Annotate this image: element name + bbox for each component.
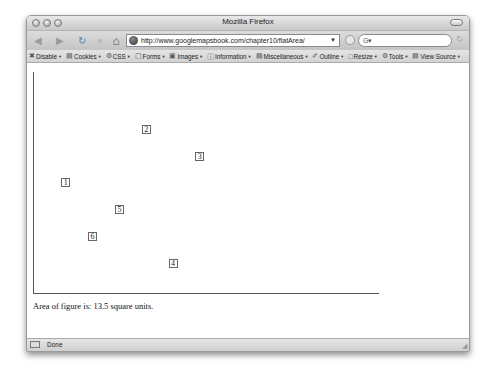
devbar-label: Disable	[36, 53, 57, 60]
devbar-cookies[interactable]: ▤Cookies▼	[66, 52, 102, 60]
chevron-down-icon: ▼	[457, 54, 461, 59]
point-label-4: 4	[169, 259, 178, 268]
view-source-icon: ▤	[412, 52, 419, 60]
resize-icon: □	[348, 53, 352, 60]
stop-icon[interactable]: ●	[93, 34, 107, 47]
forward-icon[interactable]: ▶	[53, 34, 67, 47]
resize-grip-icon[interactable]: ◢	[462, 342, 467, 350]
chevron-down-icon: ▼	[161, 54, 165, 59]
outline-icon: ✐	[312, 52, 318, 60]
devbar-tools[interactable]: ⚙Tools▼	[382, 52, 409, 60]
point-label-2: 2	[142, 125, 151, 134]
chevron-down-icon: ▼	[404, 54, 408, 59]
back-icon[interactable]: ◀	[31, 34, 45, 47]
devbar-label: Images	[177, 53, 198, 60]
chevron-down-icon: ▼	[98, 54, 102, 59]
cookies-icon: ▤	[66, 52, 73, 60]
area-result-text: Area of figure is: 13.5 square units.	[33, 301, 153, 311]
forms-icon: ▢	[135, 52, 142, 60]
page-content: 123456 Area of figure is: 13.5 square un…	[27, 64, 469, 337]
chevron-down-icon: ▼	[199, 54, 203, 59]
url-text: http://www.googlemapsbook.com/chapter10/…	[141, 37, 305, 44]
chevron-down-icon: ▼	[58, 54, 62, 59]
chevron-down-icon: ▼	[304, 54, 308, 59]
site-globe-icon	[129, 36, 138, 45]
point-label-3: 3	[195, 152, 204, 161]
status-icon	[30, 341, 40, 348]
home-icon[interactable]: ⌂	[109, 34, 123, 47]
devbar-label: Tools	[389, 53, 404, 60]
miscellaneous-icon: ▤	[256, 52, 263, 60]
information-icon: ⓘ	[207, 51, 214, 61]
chevron-down-icon: ▼	[374, 54, 378, 59]
devbar-css[interactable]: ⚙CSS▼	[106, 52, 131, 60]
status-bar: Done ◢	[27, 338, 469, 351]
point-label-5: 5	[115, 205, 124, 214]
devbar-label: Miscellaneous	[264, 53, 304, 60]
status-text: Done	[47, 341, 63, 348]
url-field[interactable]: http://www.googlemapsbook.com/chapter10/…	[126, 34, 340, 47]
devbar-label: Forms	[143, 53, 161, 60]
devbar-disable[interactable]: ✖Disable▼	[29, 52, 62, 60]
reload-icon[interactable]: ↻	[75, 34, 89, 47]
devbar-resize[interactable]: □Resize▼	[348, 53, 377, 60]
devbar-label: View Source	[420, 53, 455, 60]
devbar-forms[interactable]: ▢Forms▼	[135, 52, 166, 60]
devbar-label: Resize	[354, 53, 373, 60]
disable-icon: ✖	[29, 52, 35, 60]
devbar-images[interactable]: ▣Images▼	[169, 52, 203, 60]
devbar-label: Cookies	[74, 53, 97, 60]
y-axis-line	[33, 72, 34, 294]
point-label-1: 1	[61, 178, 70, 187]
images-icon: ▣	[169, 52, 176, 60]
web-developer-toolbar: ✖Disable▼ ▤Cookies▼ ⚙CSS▼ ▢Forms▼ ▣Image…	[27, 50, 469, 63]
devbar-outline[interactable]: ✐Outline▼	[312, 52, 344, 60]
search-reload-icon[interactable]: ↻	[456, 34, 464, 44]
devbar-miscellaneous[interactable]: ▤Miscellaneous▼	[256, 52, 309, 60]
devbar-label: CSS	[113, 53, 126, 60]
devbar-label: Information	[215, 53, 247, 60]
chevron-down-icon: ▼	[340, 54, 344, 59]
toolbar-toggle-button[interactable]	[450, 19, 463, 26]
browser-window: Mozilla Firefox ◀ ▶ ↻ ● ⌂ http://www.goo…	[26, 15, 470, 352]
css-icon: ⚙	[106, 52, 112, 60]
navigation-toolbar: ◀ ▶ ↻ ● ⌂ http://www.googlemapsbook.com/…	[27, 31, 469, 50]
devbar-label: Outline	[319, 53, 339, 60]
devbar-view-source[interactable]: ▤View Source▼	[412, 52, 460, 60]
chevron-down-icon: ▼	[248, 54, 252, 59]
chevron-down-icon: ▼	[127, 54, 131, 59]
title-bar: Mozilla Firefox	[27, 16, 469, 31]
x-axis-line	[33, 293, 379, 294]
go-button[interactable]	[345, 35, 355, 45]
point-label-6: 6	[88, 232, 97, 241]
search-field[interactable]: G▾	[358, 34, 452, 47]
tools-icon: ⚙	[382, 52, 388, 60]
devbar-information[interactable]: ⓘInformation▼	[207, 51, 251, 61]
window-title: Mozilla Firefox	[27, 17, 469, 26]
url-dropdown-icon[interactable]: ▼	[330, 35, 336, 46]
